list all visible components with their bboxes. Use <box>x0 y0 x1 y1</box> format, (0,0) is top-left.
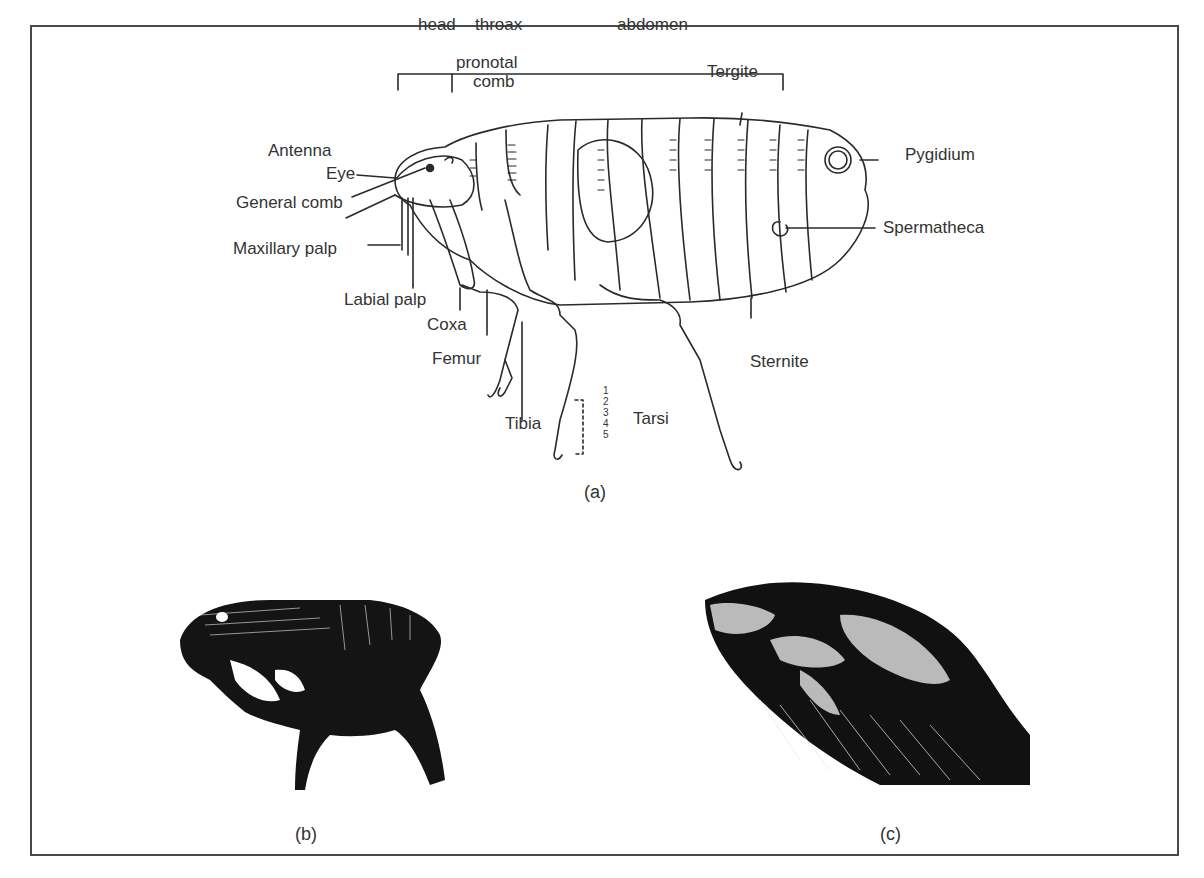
panel-c-caption: (c) <box>880 824 901 845</box>
flea-micrograph-c <box>0 0 1204 878</box>
